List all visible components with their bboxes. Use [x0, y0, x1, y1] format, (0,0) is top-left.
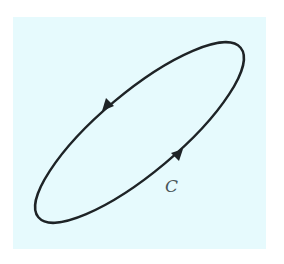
arrow-up-right-icon: [171, 149, 183, 161]
arrow-down-left-icon: [102, 98, 114, 111]
closed-curve-c: [13, 17, 267, 248]
contour-diagram: [0, 0, 284, 264]
curve-label: C: [165, 176, 178, 196]
